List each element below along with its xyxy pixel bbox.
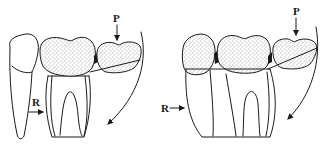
right-panel: P R	[161, 5, 318, 137]
left-molar-root-mesial	[51, 76, 55, 136]
right-label-p: P	[293, 5, 300, 17]
right-molar-furcation	[243, 92, 260, 136]
left-molar-crown	[40, 37, 95, 76]
dental-diagram: P R P R	[0, 0, 323, 144]
left-molar-furcation	[60, 92, 82, 136]
right-root-divider-1	[210, 70, 213, 136]
left-label-r: R	[32, 96, 41, 108]
left-label-p: P	[113, 12, 120, 24]
right-root-divider-2	[226, 74, 236, 136]
right-root-distal	[266, 72, 269, 136]
right-label-r: R	[161, 102, 170, 114]
left-panel: P R	[10, 12, 144, 139]
left-premolar	[10, 34, 39, 139]
left-distal-crown	[97, 42, 141, 73]
right-middle-crown	[217, 35, 270, 73]
